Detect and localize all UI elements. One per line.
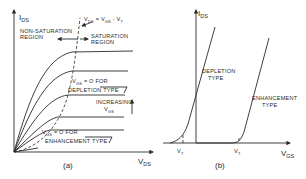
y-axis-label-b: IDS	[198, 9, 208, 19]
depletion-type-label-line2: TYPE	[208, 75, 223, 81]
vt-label-enhancement: VT	[234, 148, 241, 156]
boundary-equation-label: VDS = VGS - VT	[84, 16, 124, 24]
increasing-vgs-label: INCREASING	[96, 99, 133, 105]
enhancement-type-label: ENHANCEMENT	[252, 95, 298, 101]
vt-label-depletion: VT	[177, 148, 184, 156]
increasing-vgs-label-line2: VGS	[104, 106, 114, 114]
enhancement-vgs0-note-line2: ENHANCEMENT TYPE	[45, 138, 107, 144]
y-axis-label-a: IDS	[19, 13, 29, 23]
enhancement-vgs0-note: VGS = O FOR	[42, 129, 78, 137]
saturation-region-label-line2: REGION	[91, 39, 114, 45]
caption-a: (a)	[63, 161, 73, 170]
panel-b-transfer-characteristics: IDS VGS DEPLETION TYPE ENHANCEMENT TYPE …	[163, 9, 298, 170]
enhancement-type-label-line2: TYPE	[262, 102, 277, 108]
enhancement-transfer-curve	[196, 38, 269, 143]
depletion-type-label: DEPLETION	[202, 68, 236, 74]
depletion-vgs0-note-line2: DEPLETION TYPE	[68, 87, 119, 93]
x-axis-label-a: VDS	[138, 157, 151, 167]
caption-b: (b)	[215, 161, 225, 170]
depletion-vgs0-note: VGS = O FOR	[72, 78, 108, 86]
panel-a-output-characteristics: IDS VDS VDS = VGS - VT NON-SATURATION RE…	[14, 10, 153, 170]
mosfet-characteristics-figure: IDS VDS VDS = VGS - VT NON-SATURATION RE…	[0, 0, 306, 179]
depletion-transfer-curve	[170, 27, 215, 143]
x-axis-label-b: VGS	[281, 149, 295, 159]
non-saturation-region-label-line2: REGION	[20, 34, 43, 40]
